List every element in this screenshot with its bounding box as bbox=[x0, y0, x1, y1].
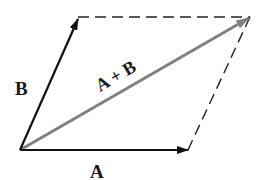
label-b: B bbox=[15, 78, 28, 99]
vector-addition-diagram: B A A + B bbox=[0, 0, 266, 180]
label-sum: A + B bbox=[92, 57, 139, 96]
label-a: A bbox=[90, 161, 104, 180]
vector-sum-arrow bbox=[20, 18, 249, 150]
vector-b-arrow bbox=[20, 19, 78, 150]
